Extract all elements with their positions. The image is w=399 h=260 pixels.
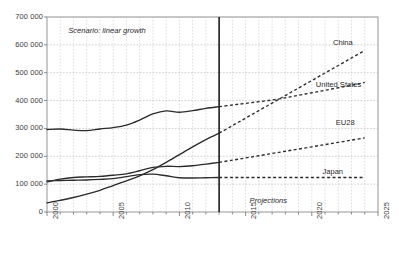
y-axis-label: 200 000: [0, 151, 43, 160]
y-axis-label: 100 000: [0, 179, 43, 188]
series-label-china: China: [333, 38, 353, 47]
projections-note: Projections: [250, 196, 288, 205]
plot-frame: [47, 17, 378, 212]
y-axis-label: 300 000: [0, 123, 43, 132]
y-axis-label: 0: [0, 207, 43, 216]
x-axis-label: 2010: [183, 202, 192, 219]
y-axis-label: 500 000: [0, 68, 43, 77]
x-axis-label: 2020: [315, 202, 324, 219]
series-label-eu28: EU28: [336, 118, 355, 127]
y-axis-label: 700 000: [0, 12, 43, 21]
series-label-united-states: United States: [316, 80, 362, 89]
x-axis-label: 2025: [382, 202, 391, 219]
x-axis-label: 2000: [51, 202, 60, 219]
projection-line-chart: 0100 000200 000300 000400 000500 000600 …: [0, 0, 399, 260]
y-axis-label: 400 000: [0, 96, 43, 105]
x-axis-label: 2005: [117, 202, 126, 219]
series-label-japan: Japan: [322, 167, 343, 176]
y-axis-label: 600 000: [0, 40, 43, 49]
scenario-note: Scenario: linear growth: [68, 26, 146, 35]
